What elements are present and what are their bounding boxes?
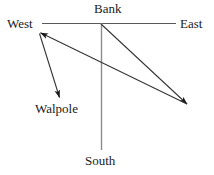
diagram-canvas: West Bank East Walpole South	[0, 0, 214, 175]
bank-to-southeast-vector	[101, 24, 187, 104]
northwest-to-walpole-vector	[40, 34, 60, 98]
southeast-to-northwest-vector	[41, 33, 188, 104]
node-label-west: West	[7, 17, 33, 30]
node-label-bank: Bank	[94, 2, 121, 15]
node-label-south: South	[85, 154, 115, 167]
node-label-walpole: Walpole	[35, 102, 78, 115]
node-label-east: East	[180, 17, 202, 30]
